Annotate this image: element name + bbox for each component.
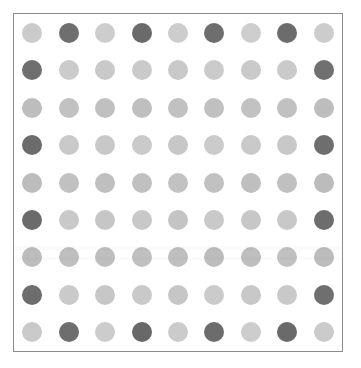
matrix-dot — [59, 247, 79, 267]
matrix-dot — [314, 98, 334, 118]
matrix-dot — [168, 322, 188, 342]
plot-frame — [13, 13, 343, 352]
matrix-dot — [95, 173, 115, 193]
matrix-dot — [168, 98, 188, 118]
matrix-dot — [314, 322, 334, 342]
matrix-dot — [132, 173, 152, 193]
matrix-dot — [241, 322, 261, 342]
matrix-dot — [95, 60, 115, 80]
matrix-dot — [168, 210, 188, 230]
matrix-dot — [22, 98, 42, 118]
matrix-dot — [277, 247, 297, 267]
matrix-dot — [22, 23, 42, 43]
matrix-dot — [95, 23, 115, 43]
matrix-dot — [132, 247, 152, 267]
matrix-dot — [95, 285, 115, 305]
matrix-dot — [168, 60, 188, 80]
matrix-dot — [22, 173, 42, 193]
matrix-dot — [168, 247, 188, 267]
matrix-dot — [241, 60, 261, 80]
matrix-dot — [168, 23, 188, 43]
matrix-dot — [241, 23, 261, 43]
matrix-dot — [241, 98, 261, 118]
matrix-dot — [132, 135, 152, 155]
matrix-dot — [204, 322, 224, 342]
matrix-dot — [204, 135, 224, 155]
matrix-dot — [168, 135, 188, 155]
matrix-dot — [277, 173, 297, 193]
matrix-dot — [59, 210, 79, 230]
matrix-dot — [22, 135, 42, 155]
matrix-dot — [204, 60, 224, 80]
matrix-dot — [314, 285, 334, 305]
matrix-dot — [314, 135, 334, 155]
matrix-dot — [314, 23, 334, 43]
matrix-dot — [204, 247, 224, 267]
matrix-dot — [22, 247, 42, 267]
matrix-dot — [168, 173, 188, 193]
matrix-dot — [204, 173, 224, 193]
matrix-dot — [204, 23, 224, 43]
matrix-dot — [132, 98, 152, 118]
matrix-dot — [314, 210, 334, 230]
dot-matrix — [14, 14, 342, 351]
matrix-dot — [132, 322, 152, 342]
matrix-dot — [314, 247, 334, 267]
matrix-dot — [59, 60, 79, 80]
matrix-dot — [59, 322, 79, 342]
matrix-dot — [95, 135, 115, 155]
matrix-dot — [22, 60, 42, 80]
matrix-dot — [168, 285, 188, 305]
matrix-dot — [95, 247, 115, 267]
matrix-dot — [132, 210, 152, 230]
matrix-dot — [277, 285, 297, 305]
matrix-dot — [277, 98, 297, 118]
matrix-dot — [241, 247, 261, 267]
matrix-dot — [314, 60, 334, 80]
matrix-dot — [59, 135, 79, 155]
matrix-dot — [59, 98, 79, 118]
matrix-dot — [95, 98, 115, 118]
matrix-dot — [59, 173, 79, 193]
matrix-dot — [22, 322, 42, 342]
matrix-dot — [277, 60, 297, 80]
matrix-dot — [132, 23, 152, 43]
matrix-dot — [132, 60, 152, 80]
matrix-dot — [22, 210, 42, 230]
matrix-dot — [95, 322, 115, 342]
matrix-dot — [59, 23, 79, 43]
matrix-dot — [204, 285, 224, 305]
matrix-dot — [241, 210, 261, 230]
matrix-dot — [241, 135, 261, 155]
figure-root — [0, 0, 361, 368]
matrix-dot — [277, 322, 297, 342]
matrix-dot — [241, 285, 261, 305]
matrix-dot — [277, 23, 297, 43]
matrix-dot — [59, 285, 79, 305]
matrix-dot — [95, 210, 115, 230]
matrix-dot — [22, 285, 42, 305]
matrix-dot — [204, 98, 224, 118]
matrix-dot — [204, 210, 224, 230]
matrix-dot — [314, 173, 334, 193]
matrix-dot — [277, 135, 297, 155]
matrix-dot — [132, 285, 152, 305]
matrix-dot — [277, 210, 297, 230]
matrix-dot — [241, 173, 261, 193]
